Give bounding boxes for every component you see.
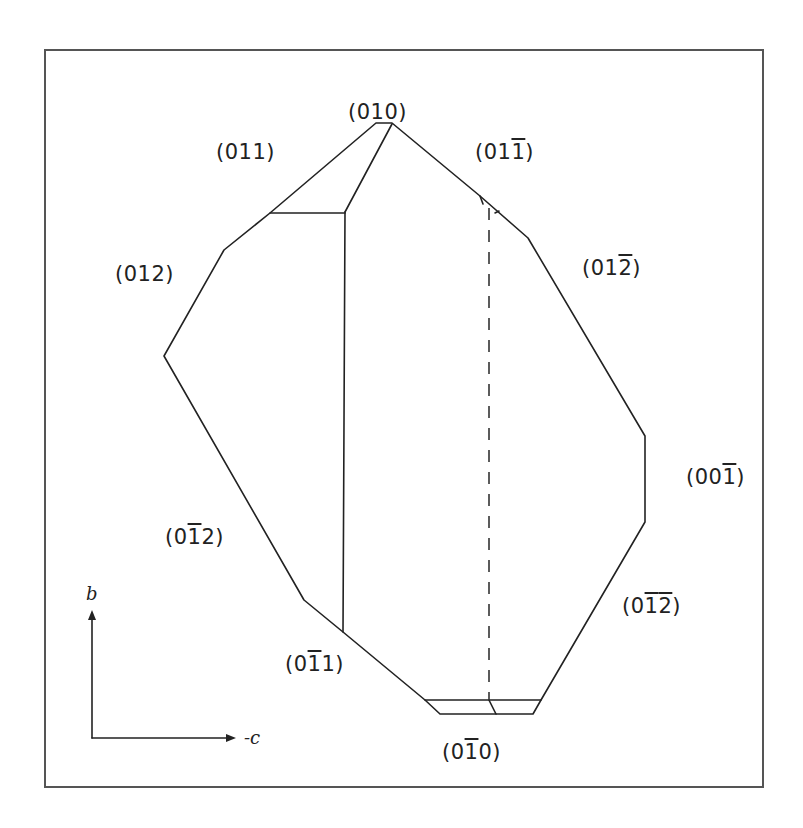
face-label-0-11: (011): [285, 652, 344, 676]
miller-index-digit: 1: [321, 652, 335, 676]
miller-index-digit: 0: [384, 100, 398, 124]
miller-index-digit: 1: [605, 256, 619, 280]
face-label-01-2: (012): [582, 256, 641, 280]
face-label-01-1: (011): [475, 140, 534, 164]
miller-index-digit: 1: [252, 140, 266, 164]
miller-index-digit: 1: [722, 465, 736, 489]
miller-index-digit: 0: [591, 256, 605, 280]
face-label-011: (011): [216, 140, 275, 164]
miller-index-digit: 0: [174, 525, 188, 549]
crystal-outline: [164, 123, 645, 714]
miller-index-digit: 2: [151, 262, 165, 286]
miller-index-digit: 1: [308, 652, 322, 676]
axis-c-arrowhead-icon: [226, 734, 236, 742]
miller-index-digit: 1: [239, 140, 253, 164]
face-label-00-1: (001): [686, 465, 745, 489]
miller-index-digit: 0: [357, 100, 371, 124]
miller-index-digit: 1: [188, 525, 202, 549]
face-label-0-1-2: (012): [622, 594, 681, 618]
miller-index-digit: 0: [695, 465, 709, 489]
miller-index-digit: 0: [294, 652, 308, 676]
axis-label-b: b: [86, 583, 98, 604]
crystal-drawing: [0, 0, 803, 828]
miller-index-digit: 0: [478, 740, 492, 764]
miller-index-digit: 2: [618, 256, 632, 280]
edge-vertical-left: [343, 212, 345, 632]
face-label-0-12: (012): [165, 525, 224, 549]
axis-b-arrowhead-icon: [88, 610, 96, 620]
miller-index-digit: 1: [371, 100, 385, 124]
miller-index-digit: 0: [225, 140, 239, 164]
miller-index-digit: 1: [498, 140, 512, 164]
face-label-012: (012): [115, 262, 174, 286]
edge-bottom-connector: [489, 700, 496, 714]
miller-index-digit: 0: [484, 140, 498, 164]
miller-index-digit: 1: [511, 140, 525, 164]
face-label-0-10: (010): [442, 740, 501, 764]
miller-index-digit: 0: [709, 465, 723, 489]
miller-index-digit: 0: [451, 740, 465, 764]
miller-index-digit: 2: [201, 525, 215, 549]
miller-index-digit: 1: [138, 262, 152, 286]
miller-index-digit: 2: [658, 594, 672, 618]
miller-index-digit: 0: [124, 262, 138, 286]
edge-010-011-inner: [345, 124, 392, 212]
face-label-010: (010): [348, 100, 407, 124]
miller-index-digit: 1: [465, 740, 479, 764]
axis-label-minus-c: -c: [244, 727, 260, 748]
miller-index-digit: 0: [631, 594, 645, 618]
miller-index-digit: 1: [645, 594, 659, 618]
